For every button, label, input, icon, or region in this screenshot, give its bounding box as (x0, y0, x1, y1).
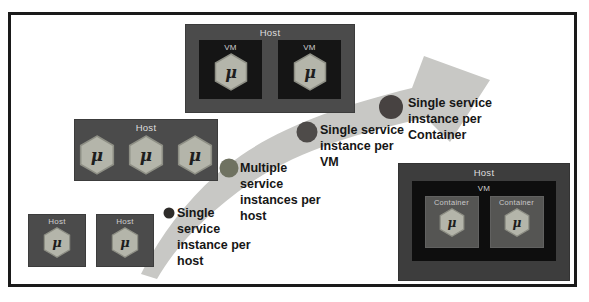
hexagon: μ (111, 227, 139, 258)
hexagon: μ (128, 135, 164, 175)
host-box-containers: Host VM Container μ Container μ (398, 163, 570, 281)
host-label: Host (48, 216, 66, 227)
container-box: Container μ (425, 196, 479, 248)
hexagon: μ (43, 227, 71, 258)
microservice-symbol: μ (52, 235, 62, 250)
vm-box: VM μ (199, 40, 262, 99)
hexagon: μ (214, 53, 248, 91)
microservice-symbol: μ (189, 145, 201, 165)
host-box-single-service: Host μ (96, 214, 154, 267)
host-box-two-vms: Host VM μ VM μ (185, 24, 355, 113)
container-box: Container μ (490, 196, 544, 248)
annotation-line: instance per (320, 138, 416, 154)
host-label: Host (116, 216, 134, 227)
annotation-single-per-container: Single service instance per Container (408, 95, 508, 143)
vm-box: VM μ (278, 40, 341, 99)
annotation-line: host (240, 208, 336, 224)
host-label: Host (474, 166, 495, 179)
vm-row: VM μ VM μ (199, 40, 341, 99)
container-label: Container (434, 198, 469, 208)
annotation-line: service (240, 176, 336, 192)
bullet-single-per-container (379, 95, 403, 119)
bullet-single-per-host (164, 208, 175, 219)
annotation-single-per-vm: Single service instance per VM (320, 122, 416, 170)
annotation-line: host (177, 253, 269, 269)
hexagon: μ (439, 208, 465, 237)
container-label: Container (499, 198, 534, 208)
annotation-line: instance per (177, 237, 269, 253)
annotation-line: Single service (408, 95, 508, 111)
microservice-symbol: μ (91, 145, 103, 165)
host-box-three-services: Host μ μ μ (74, 119, 218, 181)
hexagon: μ (293, 53, 327, 91)
vm-box: VM Container μ Container μ (412, 181, 556, 261)
annotation-line: Container (408, 127, 508, 143)
microservice-symbol: μ (140, 145, 152, 165)
service-row: μ μ μ (79, 135, 213, 175)
annotation-line: instance per (408, 111, 508, 127)
annotation-line: VM (320, 154, 416, 170)
microservice-symbol: μ (512, 216, 521, 230)
hexagon: μ (79, 135, 115, 175)
annotation-line: instances per (240, 192, 336, 208)
vm-label: VM (303, 42, 316, 53)
microservice-symbol: μ (120, 235, 130, 250)
vm-label: VM (224, 42, 237, 53)
microservices-evolution-diagram: Host VM μ VM μ Host μ (0, 0, 589, 302)
hexagon: μ (504, 208, 530, 237)
annotation-line: Single service (320, 122, 416, 138)
bullet-single-per-vm (297, 122, 318, 143)
bullet-multiple-per-host (220, 159, 239, 178)
hexagon: μ (177, 135, 213, 175)
host-label: Host (136, 121, 157, 134)
host-box-single-service: Host μ (28, 214, 86, 267)
container-row: Container μ Container μ (425, 196, 544, 248)
microservice-symbol: μ (447, 216, 456, 230)
microservice-symbol: μ (304, 63, 316, 82)
host-label: Host (260, 26, 281, 39)
vm-label: VM (478, 183, 491, 194)
microservice-symbol: μ (225, 63, 237, 82)
